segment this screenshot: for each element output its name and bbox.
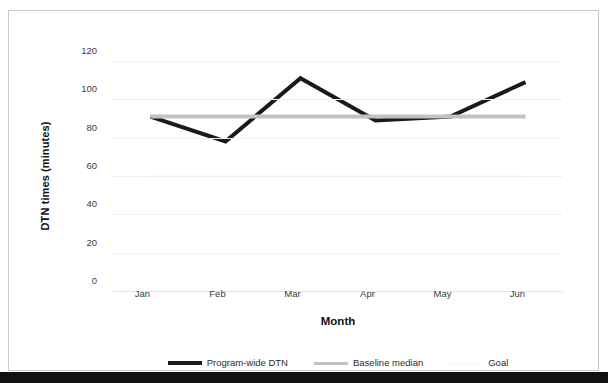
chart-screenshot: DTN times (minutes) 020406080100120 JanF… [0, 0, 608, 383]
gridline [113, 61, 563, 62]
x-tick-label: Jan [113, 289, 173, 299]
x-tick-label: Jun [488, 289, 548, 299]
y-tick-label: 40 [57, 199, 97, 209]
gridline [113, 99, 563, 100]
y-axis-title: DTN times (minutes) [39, 61, 55, 291]
series-line [151, 78, 526, 141]
legend-label: Baseline median [353, 358, 423, 368]
x-axis-title: Month [113, 315, 563, 327]
gridline [113, 138, 563, 139]
gridline [113, 253, 563, 254]
legend-swatch-icon [449, 362, 483, 365]
y-tick-label: 100 [57, 84, 97, 94]
figure-frame: DTN times (minutes) 020406080100120 JanF… [8, 10, 599, 371]
legend-item[interactable]: Baseline median [314, 358, 423, 368]
y-tick-label: 120 [57, 46, 97, 56]
y-tick-label: 60 [57, 161, 97, 171]
y-tick-label: 20 [57, 238, 97, 248]
legend-label: Program-wide DTN [207, 358, 288, 368]
x-tick-label: Apr [338, 289, 398, 299]
x-tick-label: May [413, 289, 473, 299]
chart-legend: Program-wide DTNBaseline medianGoal [113, 354, 563, 372]
gridline [113, 214, 563, 215]
x-tick-label: Mar [263, 289, 323, 299]
y-tick-label: 0 [57, 276, 97, 286]
legend-label: Goal [488, 358, 508, 368]
legend-swatch-icon [314, 362, 348, 365]
y-tick-label: 80 [57, 123, 97, 133]
plot-area [113, 61, 563, 291]
x-tick-label: Feb [188, 289, 248, 299]
legend-swatch-icon [168, 361, 202, 365]
bottom-black-bar [0, 372, 608, 383]
legend-item[interactable]: Goal [449, 358, 508, 368]
legend-item[interactable]: Program-wide DTN [168, 358, 288, 368]
gridline [113, 176, 563, 177]
